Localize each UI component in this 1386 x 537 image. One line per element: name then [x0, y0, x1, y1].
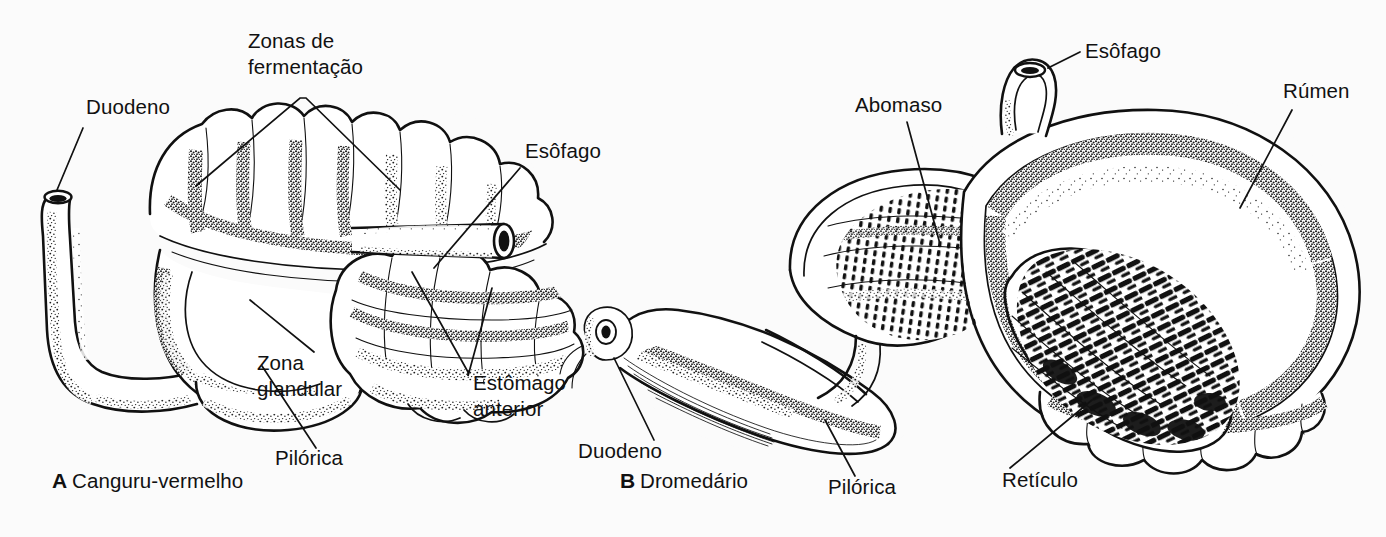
- label-estomago-anterior-line2: anterior: [473, 397, 543, 420]
- panel-b-letter: B: [620, 469, 635, 492]
- panel-a-letter: A: [52, 469, 67, 492]
- label-zona-glandular-line1: Zona: [257, 351, 305, 374]
- label-estomago-anterior-line1: Estômago: [473, 371, 566, 394]
- label-duodeno-a: Duodeno: [86, 95, 170, 118]
- label-zona-glandular-line2: glandular: [257, 377, 342, 400]
- panel-b-caption: Dromedário: [640, 469, 748, 492]
- panel-a-caption: Canguru-vermelho: [72, 469, 243, 492]
- label-esofago-a: Esôfago: [525, 139, 601, 162]
- illustration-canvas: Duodeno Zonas de fermentação Esôfago Zon…: [0, 0, 1386, 537]
- label-abomaso-b: Abomaso: [855, 93, 942, 116]
- label-zonas-fermentacao-line2: fermentação: [248, 55, 363, 78]
- label-esofago-b: Esôfago: [1085, 39, 1161, 62]
- label-zonas-fermentacao-line1: Zonas de: [248, 29, 334, 52]
- label-pilorica-b: Pilórica: [828, 475, 897, 498]
- label-duodeno-b: Duodeno: [578, 439, 662, 462]
- label-rumen-b: Rúmen: [1283, 79, 1350, 102]
- figure-anatomy-comparison: Duodeno Zonas de fermentação Esôfago Zon…: [0, 0, 1386, 537]
- label-reticulo-b: Retículo: [1002, 468, 1078, 491]
- kangaroo-oesophagus-tube: [352, 224, 514, 258]
- label-pilorica-a: Pilórica: [275, 446, 344, 469]
